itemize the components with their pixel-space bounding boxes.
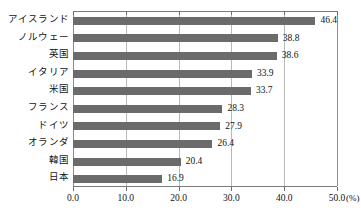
bar: [73, 87, 251, 95]
bar: [73, 158, 181, 166]
x-axis-unit-label: (%): [346, 194, 360, 203]
x-tick-mark: [337, 187, 338, 191]
bar-value-label: 33.9: [257, 69, 274, 79]
category-label: フランス: [28, 99, 69, 117]
bar-value-label: 46.4: [320, 16, 337, 26]
bar-value-label: 26.4: [217, 139, 234, 149]
category-label: イタリア: [28, 64, 69, 82]
x-tick-label: 0.0: [67, 194, 79, 204]
bar-row: 38.6: [73, 47, 337, 65]
bar-chart: アイスランドノルウェー英国イタリア米国フランスドイツオランダ韓国日本 46.43…: [0, 0, 361, 222]
bar-rows: 46.438.838.633.933.728.327.926.420.416.9: [73, 12, 337, 186]
category-label: 英国: [49, 46, 69, 64]
x-tick-label: 20.0: [170, 194, 187, 204]
category-label: 米国: [49, 81, 69, 99]
x-tick-mark-top: [284, 11, 285, 15]
bar: [73, 122, 220, 130]
bar: [73, 52, 277, 60]
bar-value-label: 16.9: [167, 174, 184, 184]
x-tick-mark: [126, 187, 127, 191]
category-axis: アイスランドノルウェー英国イタリア米国フランスドイツオランダ韓国日本: [0, 11, 69, 187]
x-tick-label: 40.0: [276, 194, 293, 204]
bar-value-label: 28.3: [227, 104, 244, 114]
category-label: 韓国: [49, 152, 69, 170]
bar-value-label: 27.9: [225, 122, 242, 132]
bar-row: 20.4: [73, 153, 337, 171]
x-tick-label: 10.0: [117, 194, 134, 204]
bar-row: 33.9: [73, 65, 337, 83]
bar-value-label: 38.6: [282, 51, 299, 61]
x-tick-mark-top: [179, 11, 180, 15]
bar-value-label: 20.4: [186, 157, 203, 167]
bar: [73, 140, 212, 148]
x-tick-mark: [284, 187, 285, 191]
bar-row: 16.9: [73, 170, 337, 188]
x-tick-mark-top: [126, 11, 127, 15]
category-label: ドイツ: [38, 117, 69, 135]
plot-area: 46.438.838.633.933.728.327.926.420.416.9: [73, 11, 337, 187]
x-tick-mark: [73, 187, 74, 191]
x-tick-mark-top: [337, 11, 338, 15]
bar-row: 46.4: [73, 12, 337, 30]
x-tick-mark: [179, 187, 180, 191]
x-tick-mark-top: [73, 11, 74, 15]
x-tick-label: 30.0: [223, 194, 240, 204]
x-tick-label: 50.0: [329, 194, 346, 204]
bar: [73, 17, 315, 25]
category-label: オランダ: [28, 134, 69, 152]
category-label: 日本: [49, 169, 69, 187]
bar-value-label: 33.7: [256, 86, 273, 96]
bar-row: 26.4: [73, 135, 337, 153]
bar-row: 33.7: [73, 82, 337, 100]
bar: [73, 34, 278, 42]
gridline-50.0: [337, 12, 338, 186]
category-label: アイスランド: [8, 11, 69, 29]
bar-row: 27.9: [73, 118, 337, 136]
category-label: ノルウェー: [18, 29, 69, 47]
bar: [73, 70, 252, 78]
bar-value-label: 38.8: [283, 34, 300, 44]
bar-row: 38.8: [73, 30, 337, 48]
x-tick-mark: [231, 187, 232, 191]
x-tick-mark-top: [231, 11, 232, 15]
bar: [73, 175, 162, 183]
bar: [73, 105, 222, 113]
bar-row: 28.3: [73, 100, 337, 118]
